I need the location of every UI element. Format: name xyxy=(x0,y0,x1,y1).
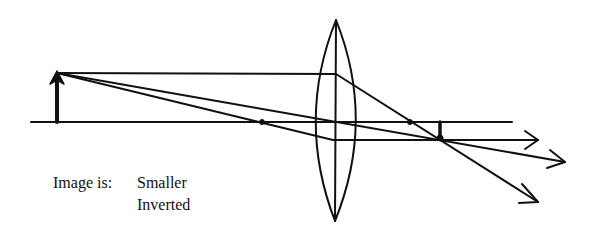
focal-ray xyxy=(57,73,538,140)
focal-point-left xyxy=(260,120,265,125)
parallel-ray xyxy=(57,73,538,202)
lens-center-line xyxy=(335,20,336,221)
parallel-ray-arrowhead-icon xyxy=(519,184,538,203)
caption-label: Image is: xyxy=(53,172,112,194)
center-ray xyxy=(57,73,565,162)
caption-property-size: Smaller xyxy=(137,172,187,194)
caption-property-orientation: Inverted xyxy=(137,194,190,216)
focal-point-right xyxy=(408,120,413,125)
image-arrow-tip xyxy=(437,135,443,141)
ray-diagram xyxy=(0,0,593,244)
